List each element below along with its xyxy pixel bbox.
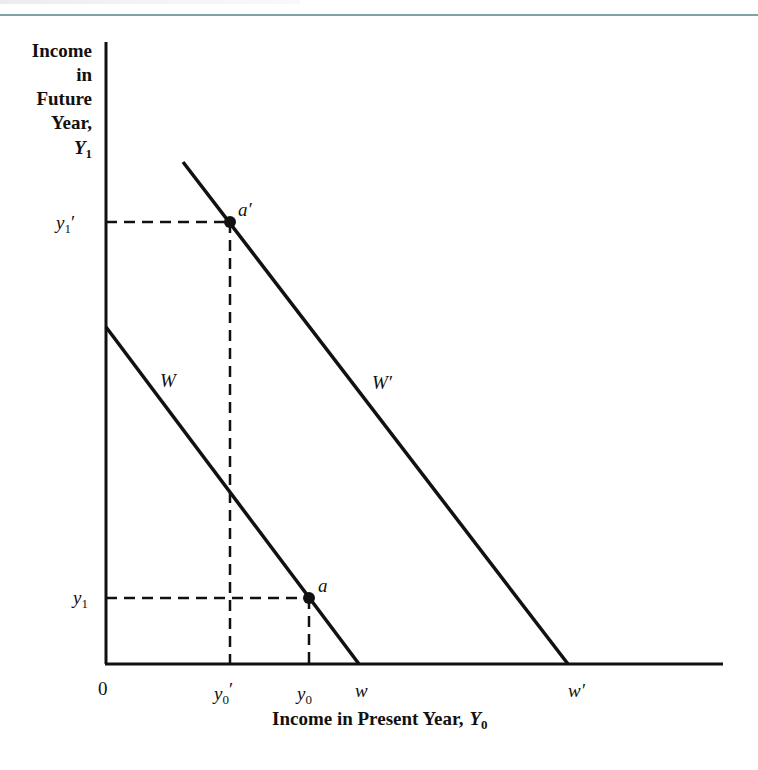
point-label-a: a (318, 575, 328, 596)
line-label-W: W (160, 370, 178, 391)
origin-label: 0 (98, 678, 108, 699)
x-tick-y0: y0 (295, 683, 312, 707)
income-streams-diagram: Income in Future Year, Y1 y1′ y1 0 y0′ y… (0, 0, 758, 770)
y-axis-title-line4: Year, (51, 112, 92, 133)
line-label-W-prime: W′ (372, 372, 393, 393)
y-tick-y1-prime: y1′ (54, 212, 75, 236)
point-label-a-prime: a′ (238, 199, 253, 220)
y-axis-title-line2: in (76, 64, 92, 85)
x-axis-title: Income in Present Year,Y0 (272, 708, 488, 732)
x-tick-w: w (355, 680, 368, 701)
x-tick-w-prime: w′ (568, 680, 586, 701)
point-a (303, 592, 315, 604)
y-tick-y1: y1 (71, 587, 88, 611)
x-tick-y0-prime: y0′ (212, 679, 233, 707)
line-W (106, 327, 359, 664)
point-a-prime (224, 216, 236, 228)
line-W-prime (183, 162, 568, 664)
y-axis-title-var: Y1 (74, 137, 92, 161)
y-axis-title-line1: Income (32, 40, 92, 61)
y-axis-title-line3: Future (36, 88, 92, 109)
